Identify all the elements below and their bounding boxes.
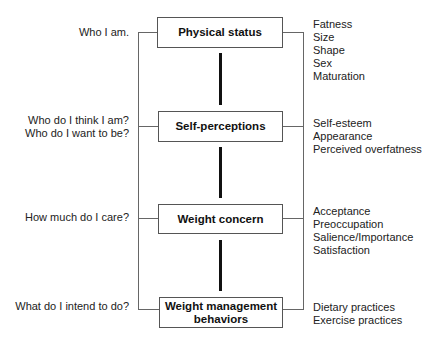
connector-2-3 xyxy=(219,147,222,198)
stage-label-line-1: Weight management xyxy=(165,300,277,313)
attribute-item: Salience/Importance xyxy=(313,231,413,244)
stage-attributes-3: Acceptance Preoccupation Salience/Import… xyxy=(313,205,413,257)
stage-box-self-perceptions: Self-perceptions xyxy=(158,111,283,142)
stage-label: Self-perceptions xyxy=(175,120,265,133)
stage-question-2: Who do I think I am? Who do I want to be… xyxy=(25,114,129,139)
left-bracket-tick-1 xyxy=(138,32,158,33)
stage-attributes-1: Fatness Size Shape Sex Maturation xyxy=(313,18,365,83)
attribute-item: Exercise practices xyxy=(313,314,402,327)
right-bracket-tick-2 xyxy=(282,126,303,127)
left-bracket-tick-3 xyxy=(138,218,158,219)
attribute-item: Maturation xyxy=(313,70,365,83)
attribute-item: Perceived overfatness xyxy=(313,143,422,156)
stage-attributes-4: Dietary practices Exercise practices xyxy=(313,301,402,327)
stage-label: Weight concern xyxy=(177,213,263,226)
right-bracket-vertical xyxy=(303,32,304,310)
left-bracket-vertical xyxy=(138,32,139,310)
connector-1-2 xyxy=(219,53,222,105)
attribute-item: Preoccupation xyxy=(313,218,413,231)
stage-attributes-2: Self-esteem Appearance Perceived overfat… xyxy=(313,117,422,156)
attribute-item: Shape xyxy=(313,44,365,57)
right-bracket-tick-1 xyxy=(282,32,303,33)
attribute-item: Size xyxy=(313,31,365,44)
attribute-item: Self-esteem xyxy=(313,117,422,130)
attribute-item: Sex xyxy=(313,57,365,70)
stage-box-weight-concern: Weight concern xyxy=(158,204,283,234)
left-bracket-tick-2 xyxy=(138,126,158,127)
right-bracket-tick-4 xyxy=(282,309,303,310)
stage-question-4: What do I intend to do? xyxy=(15,300,129,313)
attribute-item: Appearance xyxy=(313,130,422,143)
attribute-item: Satisfaction xyxy=(313,244,413,257)
left-bracket-tick-4 xyxy=(138,309,159,310)
right-bracket-tick-3 xyxy=(282,218,303,219)
stage-label-line-2: behaviors xyxy=(194,313,248,326)
attribute-item: Acceptance xyxy=(313,205,413,218)
stage-label: Physical status xyxy=(178,26,262,39)
stage-box-physical-status: Physical status xyxy=(157,17,283,48)
attribute-item: Fatness xyxy=(313,18,365,31)
connector-3-4 xyxy=(219,240,222,291)
stage-question-3: How much do I care? xyxy=(25,211,129,224)
stage-box-weight-management-behaviors: Weight management behaviors xyxy=(159,297,283,328)
attribute-item: Dietary practices xyxy=(313,301,402,314)
stage-question-1: Who I am. xyxy=(79,26,129,39)
